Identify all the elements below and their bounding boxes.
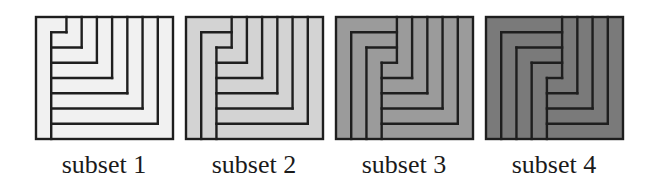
panel-label-3: subset 3: [324, 149, 484, 181]
panel-label-2: subset 2: [174, 149, 334, 181]
panel-subset-4: [486, 17, 623, 139]
panel-label-1: subset 1: [24, 149, 184, 181]
panel-subset-2: [186, 17, 323, 139]
panel-subset-1: [36, 17, 173, 139]
panel-subset-3: [336, 17, 473, 139]
panel-label-4: subset 4: [474, 149, 634, 181]
